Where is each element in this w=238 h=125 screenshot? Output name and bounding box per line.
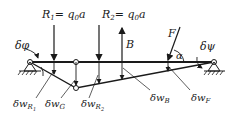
beam-diagram: R1= q0a R2= q0a B F α δφ δψ δwR1 δwG δwR… [0, 0, 238, 125]
label-alpha: α [176, 50, 183, 61]
leader-wr2 [89, 75, 98, 98]
leader-wf [168, 66, 190, 90]
label-dw-f: δwF [191, 92, 212, 105]
label-delta-psi: δψ [200, 40, 216, 53]
delta-psi-arc-lower [41, 67, 43, 76]
label-f: F [167, 27, 176, 40]
label-dw-r1: δwR1 [13, 98, 36, 112]
hinge-g-deflected [74, 86, 79, 91]
leader-wr1 [36, 72, 53, 98]
label-dw-g: δwG [45, 98, 66, 111]
label-dw-b: δwB [150, 92, 170, 105]
label-delta-phi: δφ [15, 39, 30, 52]
label-b: B [125, 38, 134, 51]
leader-wg [61, 80, 75, 98]
label-r2: R2= q0a [101, 8, 146, 22]
label-r1: R1= q0a [41, 8, 86, 22]
label-dw-r2: δwR2 [81, 98, 104, 112]
